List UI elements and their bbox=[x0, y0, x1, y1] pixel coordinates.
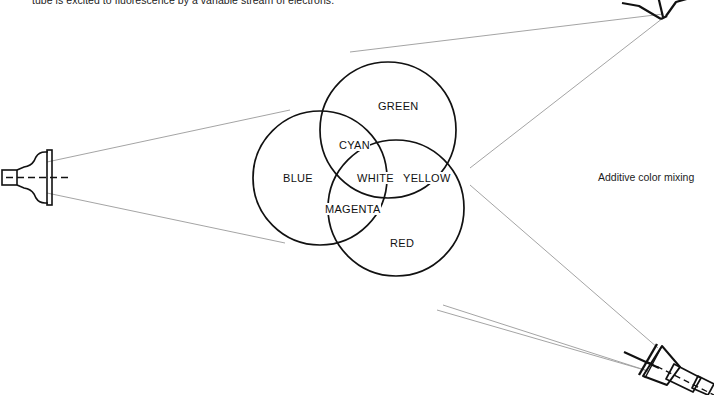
venn-label-green: GREEN bbox=[378, 100, 419, 112]
venn-label-magenta: MAGENTA bbox=[325, 203, 381, 215]
ray-left-upper bbox=[47, 110, 290, 162]
light-rays bbox=[47, 14, 663, 371]
diagram-canvas: tube is excited to fluorescence by a var… bbox=[0, 0, 714, 395]
venn-label-blue: BLUE bbox=[283, 172, 313, 184]
diagram-illustration bbox=[0, 0, 714, 395]
venn-label-yellow: YELLOW bbox=[403, 172, 451, 184]
projector-left-funnel-bottom bbox=[17, 185, 48, 203]
projector-bottom-right bbox=[624, 344, 714, 395]
projector-topright-funnel-right bbox=[666, 0, 690, 16]
venn-label-red: RED bbox=[390, 237, 414, 249]
ray-topright-lower bbox=[470, 18, 663, 168]
projector-left bbox=[2, 150, 70, 205]
ray-bottomright-upper bbox=[470, 185, 658, 348]
ray-bottomright-lower bbox=[443, 305, 648, 371]
venn-label-white: WHITE bbox=[357, 172, 394, 184]
projector-bottomright-funnel bbox=[643, 346, 680, 385]
venn-label-cyan: CYAN bbox=[339, 139, 370, 151]
projector-left-funnel-top bbox=[17, 152, 48, 170]
projector-top-right bbox=[622, 0, 690, 19]
ray-topright-upper bbox=[350, 14, 663, 52]
ray-left-lower bbox=[47, 193, 285, 243]
venn-circles bbox=[253, 62, 464, 276]
ray-bottomright-aux bbox=[437, 310, 648, 371]
